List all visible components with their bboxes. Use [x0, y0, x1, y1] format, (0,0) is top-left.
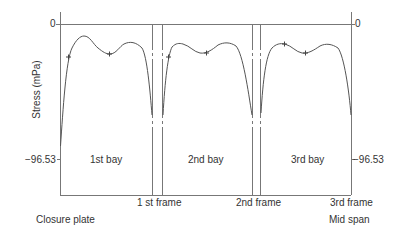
- frame-1-lines: [153, 24, 163, 195]
- y-axis-label: Stress (mPa): [31, 50, 42, 130]
- tick-min-left: −96.53: [25, 155, 56, 165]
- x-marker-frame1: 1 st frame: [137, 198, 181, 208]
- tick-min-right: −96.53: [353, 155, 384, 165]
- tick-zero-right: 0: [355, 19, 361, 29]
- x-marker-frame3: 3rd frame: [330, 198, 373, 208]
- frame-2-lines: [253, 24, 261, 195]
- tick-zero-left: 0: [50, 19, 56, 29]
- plus-markers: [66, 42, 308, 60]
- region-label-bay3: 3rd bay: [291, 155, 324, 165]
- region-label-bay1: 1st bay: [90, 155, 122, 165]
- x-start-label: Closure plate: [36, 215, 95, 225]
- region-label-bay2: 2nd bay: [188, 155, 224, 165]
- x-end-label: Mid span: [329, 215, 370, 225]
- x-marker-frame2: 2nd frame: [236, 198, 281, 208]
